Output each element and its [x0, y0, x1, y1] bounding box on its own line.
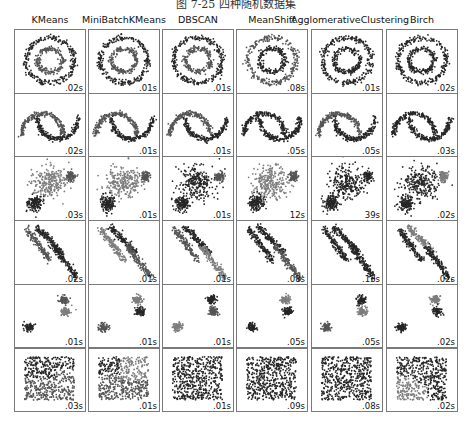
- scatter-panel-blobs-meanshift: .05s: [236, 284, 308, 349]
- scatter-panel-blobs-minibatchkmeans: .01s: [88, 284, 160, 349]
- scatter-panel-varied-meanshift: 12s: [236, 156, 308, 221]
- scatter-panel-aniso-kmeans: .02s: [14, 220, 86, 285]
- timing-label: .02s: [437, 337, 455, 347]
- timing-label: .05s: [287, 337, 305, 347]
- scatter-panel-noisy_moons-agglomerativeclustering: .05s: [311, 93, 383, 158]
- scatter-panel-noisy_circles-dbscan: .01s: [162, 29, 234, 94]
- scatter-panel-varied-minibatchkmeans: .01s: [88, 156, 160, 221]
- scatter-panel-aniso-minibatchkmeans: .01s: [88, 220, 160, 285]
- scatter-panel-no_structure-dbscan: .01s: [162, 348, 234, 413]
- scatter-panel-noisy_moons-meanshift: .05s: [236, 93, 308, 158]
- scatter-panel-noisy_moons-birch: .03s: [386, 93, 458, 158]
- scatter-panel-noisy_moons-minibatchkmeans: .01s: [88, 93, 160, 158]
- scatter-panel-aniso-dbscan: .01s: [162, 220, 234, 285]
- scatter-panel-no_structure-meanshift: .09s: [236, 348, 308, 413]
- scatter-panel-blobs-agglomerativeclustering: .05s: [311, 284, 383, 349]
- scatter-panel-noisy_moons-kmeans: .02s: [14, 93, 86, 158]
- timing-label: .01s: [139, 83, 157, 93]
- timing-label: .05s: [362, 146, 380, 156]
- scatter-panel-noisy_circles-agglomerativeclustering: .01s: [311, 29, 383, 94]
- timing-label: .08s: [287, 274, 305, 284]
- timing-label: .01s: [213, 401, 231, 411]
- timing-label: .02s: [65, 274, 83, 284]
- timing-label: .13s: [362, 274, 380, 284]
- timing-label: .02s: [437, 274, 455, 284]
- timing-label: .03s: [65, 210, 83, 220]
- timing-label: 12s: [290, 210, 305, 220]
- scatter-panel-noisy_circles-birch: .02s: [386, 29, 458, 94]
- scatter-panel-no_structure-agglomerativeclustering: .08s: [311, 348, 383, 413]
- timing-label: .01s: [213, 210, 231, 220]
- scatter-panel-varied-kmeans: .03s: [14, 156, 86, 221]
- timing-label: .01s: [139, 401, 157, 411]
- timing-label: .03s: [437, 146, 455, 156]
- timing-label: .01s: [139, 146, 157, 156]
- column-title-birch: Birch: [366, 14, 472, 25]
- timing-label: .02s: [437, 401, 455, 411]
- scatter-panel-varied-dbscan: .01s: [162, 156, 234, 221]
- scatter-panel-no_structure-birch: .02s: [386, 348, 458, 413]
- scatter-panel-blobs-kmeans: .01s: [14, 284, 86, 349]
- scatter-panel-blobs-birch: .02s: [386, 284, 458, 349]
- timing-label: .01s: [362, 83, 380, 93]
- scatter-panel-varied-agglomerativeclustering: 39s: [311, 156, 383, 221]
- timing-label: .01s: [213, 83, 231, 93]
- timing-label: .02s: [437, 83, 455, 93]
- timing-label: .01s: [65, 337, 83, 347]
- scatter-panel-no_structure-kmeans: .03s: [14, 348, 86, 413]
- timing-label: .01s: [213, 146, 231, 156]
- timing-label: .03s: [65, 401, 83, 411]
- timing-label: .02s: [437, 210, 455, 220]
- timing-label: 39s: [365, 210, 380, 220]
- timing-label: .02s: [65, 146, 83, 156]
- timing-label: .01s: [139, 337, 157, 347]
- scatter-panel-noisy_moons-dbscan: .01s: [162, 93, 234, 158]
- timing-label: .01s: [213, 337, 231, 347]
- scatter-panel-aniso-birch: .02s: [386, 220, 458, 285]
- timing-label: .02s: [65, 83, 83, 93]
- timing-label: .08s: [287, 83, 305, 93]
- scatter-panel-aniso-meanshift: .08s: [236, 220, 308, 285]
- scatter-panel-no_structure-minibatchkmeans: .01s: [88, 348, 160, 413]
- scatter-panel-noisy_circles-minibatchkmeans: .01s: [88, 29, 160, 94]
- scatter-panel-noisy_circles-kmeans: .02s: [14, 29, 86, 94]
- figure-caption: 图 7-25 四种随机数据集: [0, 0, 472, 11]
- timing-label: .05s: [362, 337, 380, 347]
- timing-label: .01s: [213, 274, 231, 284]
- scatter-panel-aniso-agglomerativeclustering: .13s: [311, 220, 383, 285]
- timing-label: .01s: [139, 274, 157, 284]
- timing-label: .08s: [362, 401, 380, 411]
- scatter-panel-blobs-dbscan: .01s: [162, 284, 234, 349]
- timing-label: .05s: [287, 146, 305, 156]
- timing-label: .01s: [139, 210, 157, 220]
- scatter-panel-varied-birch: .02s: [386, 156, 458, 221]
- scatter-panel-noisy_circles-meanshift: .08s: [236, 29, 308, 94]
- timing-label: .09s: [287, 401, 305, 411]
